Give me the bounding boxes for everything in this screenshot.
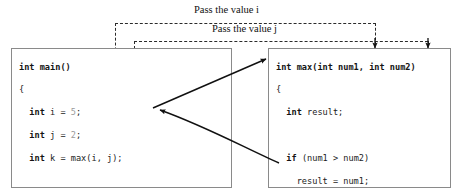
code-line: int i = 5; [19,107,185,118]
dashed-j-horizontal [134,41,428,42]
code-token: { [276,84,281,94]
code-token [19,130,29,140]
code-token: ; [76,107,81,117]
code-line: int k = max(i, j); [19,153,185,164]
code-token: int [286,107,302,117]
code-token [19,107,29,117]
code-line: { [19,84,185,95]
code-token: k = max(i, j); [45,153,123,163]
code-token: int [29,130,45,140]
code-line: int max(int num1, int num2) [276,62,416,73]
code-token: int max(int num1, int num2) [276,62,416,72]
main-code-text: int main() { int i = 5; int j = 2; int k… [19,62,185,196]
pass-the-value-j-label: Pass the value j [212,23,277,34]
code-line: int result; [276,107,416,118]
code-token: if [286,153,296,163]
code-token: result; [302,107,343,117]
dashed-j-vertical-right [428,41,429,45]
code-token: result = num1; [276,176,369,186]
main-code-box: int main() { int i = 5; int j = 2; int k… [11,48,232,188]
code-token [276,153,286,163]
code-token: { [19,84,24,94]
code-token [276,107,286,117]
code-line: { [276,84,416,95]
code-line [276,130,416,141]
code-token: ; [76,130,81,140]
code-token [19,153,29,163]
code-token: (num1 > num2) [297,153,369,163]
code-token: int [29,107,45,117]
code-line: result = num1; [276,176,416,187]
figure-canvas: Pass the value i Pass the value j int ma… [0,0,464,196]
code-token: int [29,153,45,163]
pass-the-value-i-label: Pass the value i [194,4,259,15]
max-code-text: int max(int num1, int num2) { int result… [276,62,416,196]
code-token: int main() [19,62,71,72]
code-line: int j = 2; [19,130,185,141]
max-code-box: int max(int num1, int num2) { int result… [268,48,451,188]
code-token: j = [45,130,71,140]
code-line [19,176,185,187]
code-token: i = [45,107,71,117]
code-line: if (num1 > num2) [276,153,416,164]
code-line: int main() [19,62,185,73]
